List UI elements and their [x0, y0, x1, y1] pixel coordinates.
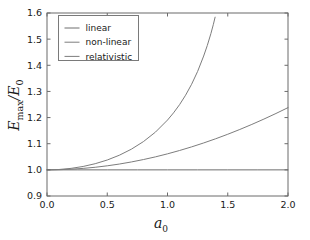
x-tick-labels: 0.00.51.01.52.0 — [39, 199, 295, 210]
y-tick-label: 1.4 — [27, 60, 42, 71]
legend-label-non-linear: non-linear — [86, 37, 132, 47]
x-tick-label: 1.5 — [220, 199, 235, 210]
x-axis-title-subscript: 0 — [162, 224, 168, 234]
x-axis-title: a0 — [154, 215, 168, 234]
y-tick-label: 1.0 — [27, 164, 42, 175]
y-tick-label: 0.9 — [27, 190, 42, 201]
y-tick-label: 1.1 — [27, 138, 42, 149]
y-axis-title: Emax/E0 — [6, 79, 25, 131]
x-axis-title-base: a — [154, 215, 162, 231]
x-tick-label: 0.5 — [100, 199, 115, 210]
legend-label-relativistic: relativistic — [86, 52, 133, 62]
y-tick-label: 1.2 — [27, 112, 42, 123]
y-axis-title-E2: E — [6, 85, 22, 96]
y-tick-label: 1.3 — [27, 86, 42, 97]
x-tick-label: 1.0 — [160, 199, 175, 210]
chart-plot: 0.00.51.01.52.0 0.91.01.11.21.31.41.51.6… — [0, 0, 310, 240]
y-tick-labels: 0.91.01.11.21.31.41.51.6 — [27, 7, 42, 201]
y-axis-title-subscript-zero: 0 — [14, 79, 25, 85]
y-tick-label: 1.6 — [27, 7, 42, 18]
x-tick-label: 2.0 — [280, 199, 295, 210]
y-axis-title-subscript-max: max — [14, 100, 25, 121]
legend-label-linear: linear — [86, 23, 112, 33]
y-tick-label: 1.5 — [27, 34, 42, 45]
figure-canvas: 0.00.51.01.52.0 0.91.01.11.21.31.41.51.6… — [0, 0, 310, 240]
svg-text:Emax/E0: Emax/E0 — [6, 79, 25, 131]
y-axis-title-E1: E — [6, 120, 22, 131]
svg-text:a0: a0 — [154, 215, 168, 234]
chart-legend[interactable]: linearnon-linearrelativistic — [59, 16, 139, 62]
